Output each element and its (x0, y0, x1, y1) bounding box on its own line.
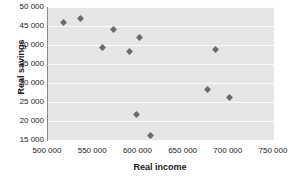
y-tick-label: 25 000 (2, 98, 44, 106)
data-point (147, 132, 154, 139)
gridline (48, 102, 274, 103)
y-tick-label: 20 000 (2, 117, 44, 125)
gridline (48, 121, 274, 122)
data-point (133, 111, 140, 118)
y-tick-label: 15 000 (2, 136, 44, 144)
gridline (48, 83, 274, 84)
gridline (48, 26, 274, 27)
y-axis-tick-labels: 50 00045 00040 00035 00030 00025 00020 0… (0, 7, 44, 140)
data-point (136, 34, 143, 41)
gridline (48, 45, 274, 46)
x-axis-tick-labels: 500 000550 000600 000650 000700 000750 0… (47, 146, 273, 158)
data-point (99, 44, 106, 51)
data-point (212, 46, 219, 53)
data-point (110, 26, 117, 33)
y-tick-label: 50 000 (2, 3, 44, 11)
y-tick-label: 45 000 (2, 22, 44, 30)
plot-area (47, 7, 274, 141)
x-tick-label: 750 000 (243, 146, 290, 155)
data-point (204, 86, 211, 93)
x-axis-title: Real income (47, 162, 273, 172)
gridline (48, 7, 274, 8)
gridline (48, 140, 274, 141)
data-point (126, 48, 133, 55)
y-tick-label: 30 000 (2, 79, 44, 87)
data-point (226, 94, 233, 101)
y-tick-label: 40 000 (2, 41, 44, 49)
y-tick-label: 35 000 (2, 60, 44, 68)
scatter-chart-figure: Real savings 50 00045 00040 00035 00030 … (0, 0, 290, 177)
data-point (77, 15, 84, 22)
gridline (48, 64, 274, 65)
